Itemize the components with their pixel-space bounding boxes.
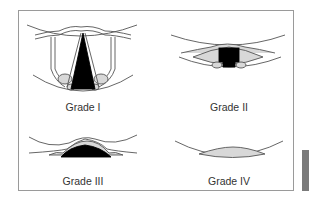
- laryngoscopy-grade-figure: Grade I Grade II Grade III Grade IV: [18, 10, 294, 191]
- glottis-opening: [219, 48, 239, 62]
- grade-1-illustration: [27, 25, 137, 91]
- grade-4-label: Grade IV: [169, 175, 289, 187]
- side-tab-marker: [302, 150, 309, 191]
- grade-3-illustration: [29, 135, 137, 157]
- grade-3-label: Grade III: [23, 175, 143, 187]
- grade-2-illustration: [171, 35, 285, 68]
- glottis-opening: [71, 33, 95, 89]
- epiglottis-tip: [61, 145, 111, 157]
- grade-4-illustration: [175, 141, 283, 158]
- grade-1-label: Grade I: [23, 101, 143, 113]
- soft-palate: [199, 147, 265, 158]
- grade-2-label: Grade II: [169, 101, 289, 113]
